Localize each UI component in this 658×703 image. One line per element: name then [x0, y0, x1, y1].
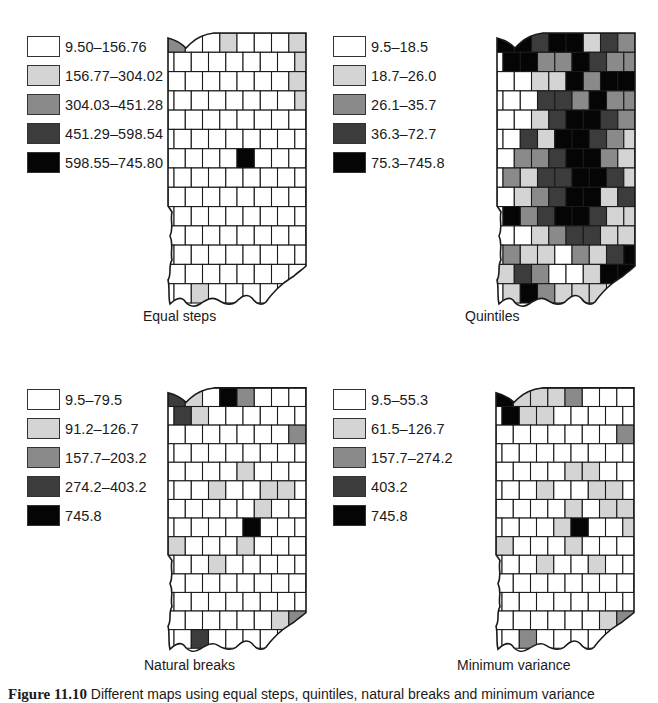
- legend-label: 26.1–35.7: [371, 97, 436, 113]
- panel-natural-breaks: 9.5–79.5 91.2–126.7 157.7–203.2 274.2–40…: [0, 340, 329, 675]
- legend-row: 156.77–304.02: [27, 61, 163, 90]
- figure-number: Figure 11.10: [8, 686, 87, 702]
- legend-label: 18.7–26.0: [371, 68, 436, 84]
- legend-swatch-class-5: [27, 152, 60, 173]
- legend-row: 598.55–745.80: [27, 148, 163, 177]
- legend-swatch-class-2: [27, 418, 60, 439]
- legend-row: 745.8: [333, 501, 453, 530]
- legend-row: 9.5–18.5: [333, 32, 445, 61]
- panel-quintiles: 9.5–18.5 18.7–26.0 26.1–35.7 36.3–72.7 7…: [329, 0, 658, 335]
- legend-label: 403.2: [371, 479, 408, 495]
- legend-label: 598.55–745.80: [65, 155, 163, 171]
- legend-swatch-class-1: [333, 36, 366, 57]
- legend-row: 157.7–203.2: [27, 443, 147, 472]
- legend-label: 75.3–745.8: [371, 155, 445, 171]
- legend-row: 157.7–274.2: [333, 443, 453, 472]
- legend-swatch-class-5: [27, 505, 60, 526]
- legend-natural-breaks: 9.5–79.5 91.2–126.7 157.7–203.2 274.2–40…: [27, 385, 147, 530]
- legend-row: 304.03–451.28: [27, 90, 163, 119]
- legend-row: 61.5–126.7: [333, 414, 453, 443]
- legend-label: 745.8: [65, 508, 102, 524]
- legend-swatch-class-5: [333, 505, 366, 526]
- legend-label: 745.8: [371, 508, 408, 524]
- choropleth-map-natural-breaks: [166, 385, 308, 655]
- legend-swatch-class-3: [333, 94, 366, 115]
- legend-swatch-class-1: [333, 389, 366, 410]
- legend-label: 451.29–598.54: [65, 126, 163, 142]
- legend-label: 9.5–79.5: [65, 392, 122, 408]
- figure-caption-text: Different maps using equal steps, quinti…: [91, 686, 595, 702]
- legend-row: 26.1–35.7: [333, 90, 445, 119]
- map-caption: Minimum variance: [457, 657, 571, 673]
- legend-label: 274.2–403.2: [65, 479, 147, 495]
- legend-swatch-class-4: [333, 123, 366, 144]
- legend-row: 9.5–55.3: [333, 385, 453, 414]
- legend-quintiles: 9.5–18.5 18.7–26.0 26.1–35.7 36.3–72.7 7…: [333, 32, 445, 177]
- legend-label: 157.7–203.2: [65, 450, 147, 466]
- legend-swatch-class-1: [27, 36, 60, 57]
- legend-swatch-class-2: [333, 418, 366, 439]
- legend-row: 403.2: [333, 472, 453, 501]
- panel-minimum-variance: 9.5–55.3 61.5–126.7 157.7–274.2 403.2 74…: [329, 340, 658, 675]
- legend-label: 156.77–304.02: [65, 68, 163, 84]
- legend-swatch-class-4: [27, 476, 60, 497]
- legend-label: 91.2–126.7: [65, 421, 139, 437]
- legend-label: 9.50–156.76: [65, 39, 147, 55]
- legend-swatch-class-4: [27, 123, 60, 144]
- legend-label: 304.03–451.28: [65, 97, 163, 113]
- legend-swatch-class-4: [333, 476, 366, 497]
- legend-swatch-class-3: [27, 447, 60, 468]
- legend-swatch-class-3: [27, 94, 60, 115]
- legend-row: 745.8: [27, 501, 147, 530]
- legend-label: 61.5–126.7: [371, 421, 445, 437]
- legend-swatch-class-5: [333, 152, 366, 173]
- legend-swatch-class-2: [333, 65, 366, 86]
- legend-row: 91.2–126.7: [27, 414, 147, 443]
- legend-row: 75.3–745.8: [333, 148, 445, 177]
- legend-label: 9.5–18.5: [371, 39, 428, 55]
- figure-caption: Figure 11.10 Different maps using equal …: [8, 686, 595, 703]
- legend-row: 18.7–26.0: [333, 61, 445, 90]
- choropleth-map-equal-steps: [166, 30, 308, 310]
- legend-minimum-variance: 9.5–55.3 61.5–126.7 157.7–274.2 403.2 74…: [333, 385, 453, 530]
- legend-row: 36.3–72.7: [333, 119, 445, 148]
- choropleth-map-quintiles: [495, 30, 637, 310]
- choropleth-map-minimum-variance: [494, 385, 636, 655]
- legend-row: 451.29–598.54: [27, 119, 163, 148]
- legend-row: 9.50–156.76: [27, 32, 163, 61]
- map-caption: Natural breaks: [144, 657, 235, 673]
- panel-equal-steps: 9.50–156.76 156.77–304.02 304.03–451.28 …: [0, 0, 329, 335]
- legend-swatch-class-1: [27, 389, 60, 410]
- legend-swatch-class-2: [27, 65, 60, 86]
- legend-label: 9.5–55.3: [371, 392, 428, 408]
- map-caption: Quintiles: [465, 308, 519, 324]
- legend-label: 157.7–274.2: [371, 450, 453, 466]
- legend-swatch-class-3: [333, 447, 366, 468]
- map-caption: Equal steps: [143, 308, 216, 324]
- legend-row: 9.5–79.5: [27, 385, 147, 414]
- legend-row: 274.2–403.2: [27, 472, 147, 501]
- legend-equal-steps: 9.50–156.76 156.77–304.02 304.03–451.28 …: [27, 32, 163, 177]
- legend-label: 36.3–72.7: [371, 126, 436, 142]
